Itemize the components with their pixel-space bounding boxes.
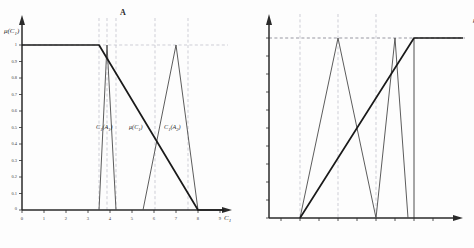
chart-a-x-tick-label: 9	[214, 216, 226, 221]
chart-a-y-tick-label: 0.9	[2, 59, 17, 64]
chart-b-plot	[237, 0, 474, 248]
chart-a-x-axis-label-sub: 1	[229, 218, 232, 223]
chart-a-series-mu-c1	[22, 45, 224, 210]
figure-root: A μ(C1) C1 1 0.9 0.8 0.7 0.6 0.5 0.4 0.3…	[0, 0, 474, 248]
chart-a-y-tick-label: 0.1	[2, 191, 17, 196]
chart-a-y-tick-label: 0.8	[2, 75, 17, 80]
chart-a-y-axis-label: μ(C1)	[4, 27, 19, 36]
chart-b-series-c2a2	[376, 38, 408, 218]
chart-a-x-tick-label: 2	[60, 216, 72, 221]
chart-a-y-tick-label: 0.4	[2, 141, 17, 146]
chart-b-series-mu-c2	[300, 38, 463, 218]
chart-panel-a: A μ(C1) C1 1 0.9 0.8 0.7 0.6 0.5 0.4 0.3…	[0, 0, 237, 248]
chart-a-y-tick-label: 0.6	[2, 108, 17, 113]
chart-a-x-tick-label: 6	[148, 216, 160, 221]
chart-a-y-tick-label: 0.3	[2, 158, 17, 163]
chart-a-y-tick-label: 0	[2, 206, 17, 211]
chart-a-gridlines	[99, 18, 188, 210]
chart-a-x-tick-label: 3	[82, 216, 94, 221]
chart-a-y-axis-arrow	[19, 15, 25, 25]
chart-a-title: A	[120, 8, 126, 17]
chart-a-y-axis-label-base: μ(C	[4, 27, 15, 35]
annot-close: )	[141, 123, 143, 130]
annot-base: μ(C	[129, 123, 138, 130]
chart-b-y-axis-arrow	[266, 14, 272, 25]
annot-close: )	[111, 123, 113, 130]
chart-a-x-tick-label: 8	[192, 216, 204, 221]
chart-a-y-tick-label: 0.7	[2, 92, 17, 97]
chart-panel-b: B μ(C2) C2 μ(C2) 1 0.9 0.8 0.7 0.6 0.5 0…	[237, 0, 474, 248]
annot-close: )	[179, 123, 181, 130]
chart-a-annotation-mu-c1: μ(C1)	[129, 123, 143, 132]
chart-a-y-tick-label: 0.5	[2, 125, 17, 130]
chart-b-x-axis-arrow	[453, 215, 463, 221]
chart-a-x-tick-label: 1	[38, 216, 50, 221]
chart-a-plot	[0, 0, 237, 248]
chart-a-x-tick-label: 4	[104, 216, 116, 221]
chart-a-x-tick-label: 7	[170, 216, 182, 221]
chart-a-y-axis-label-sub: 1	[15, 31, 18, 36]
chart-a-y-tick-label: 0.2	[2, 174, 17, 179]
chart-a-x-tick-label: 0	[16, 216, 28, 221]
chart-a-annotation-c1a2: C1(A2)	[164, 123, 181, 132]
chart-a-x-tick-label: 5	[126, 216, 138, 221]
chart-a-annotation-c1a1: C1(A1)	[96, 123, 113, 132]
chart-a-y-tick-label: 1	[2, 42, 17, 47]
